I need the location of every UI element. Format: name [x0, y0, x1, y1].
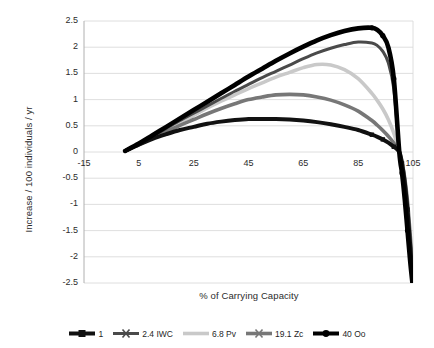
legend-item-3[interactable]: 19.1 Zc — [245, 328, 303, 339]
x-axis-title: % of Carrying Capacity — [84, 290, 414, 301]
x-tick-label: 5 — [119, 158, 159, 168]
legend-label: 6.8 Pv — [212, 329, 236, 339]
x-tick-label: -15 — [64, 158, 104, 168]
legend-swatch-icon — [312, 328, 340, 339]
legend-label: 2.4 IWC — [142, 329, 173, 339]
y-tick-label: -0.5 — [44, 172, 78, 182]
legend-swatch-icon — [68, 328, 96, 339]
y-axis-title: Increase / 100 individuals / yr — [23, 70, 34, 270]
x-tick-label: 65 — [283, 158, 323, 168]
chart-legend: 12.4 IWC6.8 Pv19.1 Zc40 Oo — [0, 328, 434, 339]
y-tick-label: 0.5 — [44, 120, 78, 130]
legend-swatch-icon — [182, 328, 210, 339]
x-tick-label: 105 — [393, 158, 433, 168]
legend-item-0[interactable]: 1 — [68, 328, 103, 339]
y-tick-label: 2 — [44, 41, 78, 51]
legend-swatch-icon — [112, 328, 140, 339]
x-tick-label: 85 — [338, 158, 378, 168]
y-tick-label: -1 — [44, 198, 78, 208]
legend-label: 40 Oo — [342, 329, 365, 339]
x-tick-label: 25 — [174, 158, 214, 168]
legend-item-2[interactable]: 6.8 Pv — [182, 328, 236, 339]
y-tick-label: -2 — [44, 251, 78, 261]
legend-swatch-icon — [245, 328, 273, 339]
legend-item-4[interactable]: 40 Oo — [312, 328, 365, 339]
legend-label: 1 — [98, 329, 103, 339]
y-tick-label: 1.5 — [44, 67, 78, 77]
y-tick-label: -2.5 — [44, 277, 78, 287]
y-tick-label: 1 — [44, 94, 78, 104]
x-tick-label: 45 — [229, 158, 269, 168]
y-tick-label: 2.5 — [44, 15, 78, 25]
legend-label: 19.1 Zc — [275, 329, 303, 339]
legend-item-1[interactable]: 2.4 IWC — [112, 328, 173, 339]
y-tick-label: -1.5 — [44, 225, 78, 235]
chart-container: Increase / 100 individuals / yr % of Car… — [0, 0, 434, 348]
y-tick-label: 0 — [44, 146, 78, 156]
